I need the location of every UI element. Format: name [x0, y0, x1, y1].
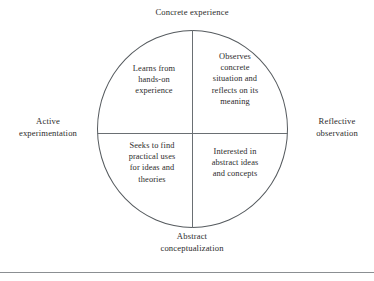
pole-label-active-experimentation: Active experimentation	[2, 116, 94, 139]
quadrant-text-lower-right: Interested in abstract ideas and concept…	[197, 146, 273, 180]
pole-label-concrete-experience: Concrete experience	[112, 7, 272, 19]
pole-label-reflective-observation: Reflective observation	[300, 116, 374, 139]
horizontal-axis-line	[97, 133, 288, 134]
bottom-divider-rule	[0, 272, 374, 273]
quadrant-text-upper-right: Observes concrete situation and reflects…	[196, 51, 274, 107]
experiential-learning-diagram: Concrete experience Reflective observati…	[0, 0, 374, 281]
quadrant-text-lower-left: Seeks to find practical uses for ideas a…	[114, 140, 190, 185]
pole-label-abstract-conceptualization: Abstract conceptualization	[122, 231, 262, 254]
quadrant-text-upper-left: Learns from hands-on experience	[118, 63, 190, 97]
vertical-axis-line	[192, 30, 193, 228]
